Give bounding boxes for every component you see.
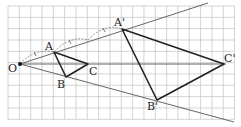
triangle-ABC (54, 52, 88, 77)
label-A-prime: A' (113, 16, 125, 29)
label-C: C (89, 65, 97, 78)
label-C-prime: C' (224, 52, 235, 65)
ray-upper (20, 3, 208, 64)
label-O: O (8, 62, 17, 75)
tick-mark (69, 40, 71, 44)
center-point-O (18, 62, 22, 66)
arc-mid-Aprime (88, 27, 122, 40)
label-B-prime: B' (147, 100, 158, 113)
arc-A-mid (54, 39, 88, 52)
ray-lower (20, 64, 234, 122)
dilation-diagram: O A B C A' B' C' (0, 0, 241, 127)
label-A: A (44, 40, 54, 53)
label-B: B (57, 78, 65, 91)
